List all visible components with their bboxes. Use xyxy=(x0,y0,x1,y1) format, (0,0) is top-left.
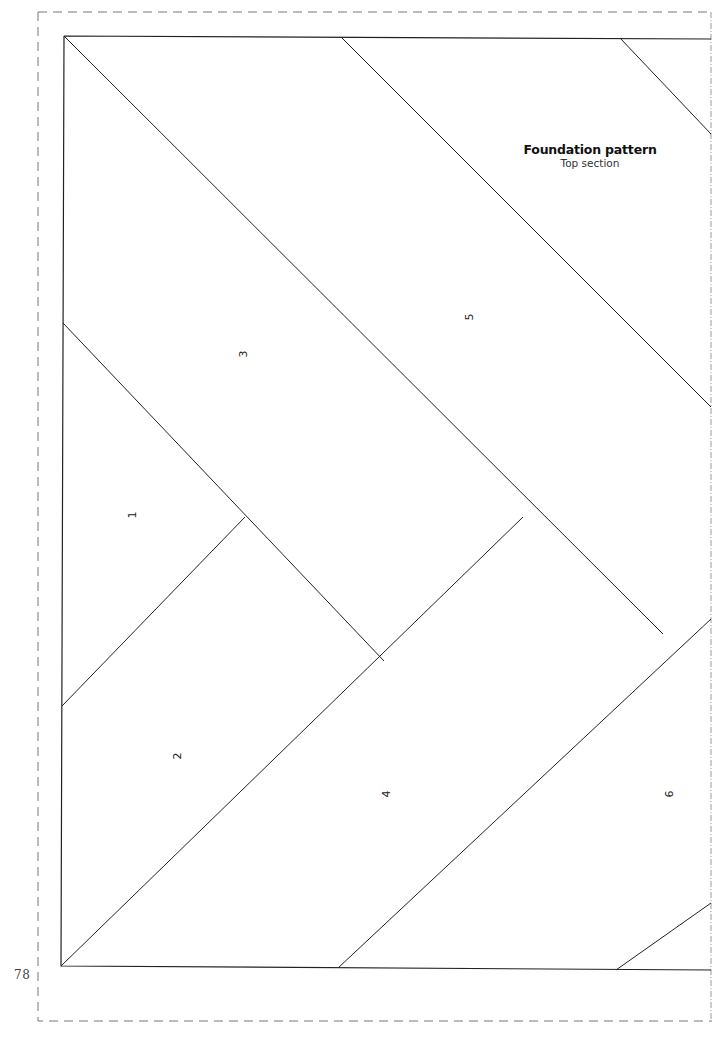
seam-line-c xyxy=(620,38,711,134)
seam-line-f xyxy=(61,517,523,966)
seam-line-d xyxy=(63,323,384,661)
piece-label-5: 5 xyxy=(463,310,477,324)
seam-line-a xyxy=(64,36,663,634)
pattern-title: Foundation pattern xyxy=(520,143,660,157)
seam-line-e xyxy=(62,517,245,706)
piece-label-1: 1 xyxy=(126,508,140,522)
pattern-outline xyxy=(61,36,711,970)
piece-label-4: 4 xyxy=(380,787,394,801)
pattern-title-block: Foundation pattern Top section xyxy=(520,143,660,169)
page-number: 78 xyxy=(14,968,30,982)
seam-line-h xyxy=(616,903,711,970)
pattern-page: Foundation pattern Top section 1 2 3 4 5… xyxy=(0,0,716,1041)
piece-label-6: 6 xyxy=(663,787,677,801)
seam-line-b xyxy=(341,37,711,407)
piece-label-2: 2 xyxy=(171,749,185,763)
piece-label-3: 3 xyxy=(237,347,251,361)
pattern-subtitle: Top section xyxy=(520,157,660,169)
